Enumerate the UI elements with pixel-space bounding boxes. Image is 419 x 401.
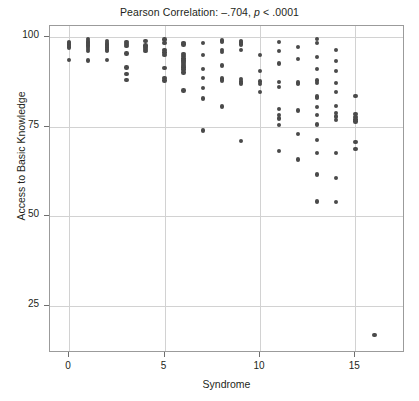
x-tick-label-5: 5 <box>144 360 184 371</box>
data-point <box>258 82 262 86</box>
data-point <box>124 51 128 55</box>
data-point <box>315 172 319 176</box>
plot-area <box>49 25 404 352</box>
data-point <box>239 42 243 46</box>
data-point <box>353 140 357 144</box>
y-tick-mark-75 <box>44 126 49 127</box>
data-point <box>201 76 205 80</box>
data-point <box>220 40 224 44</box>
data-point <box>258 69 262 73</box>
data-point <box>277 61 281 65</box>
gridline-horizontal-100 <box>50 37 403 38</box>
chart-title-suffix: < .0001 <box>260 6 299 18</box>
data-point <box>86 58 90 62</box>
gridline-horizontal-25 <box>50 306 403 307</box>
x-tick-label-15: 15 <box>334 360 374 371</box>
data-point <box>124 44 128 48</box>
x-tick-mark-0 <box>68 352 69 357</box>
data-point <box>239 81 243 85</box>
data-point <box>239 48 243 52</box>
data-point <box>353 147 357 151</box>
data-point <box>277 85 281 89</box>
data-point <box>201 67 205 71</box>
data-point <box>334 59 338 63</box>
data-point <box>353 119 357 123</box>
data-point <box>201 86 205 90</box>
data-point <box>277 149 281 153</box>
data-point <box>315 67 319 71</box>
data-point <box>334 200 338 204</box>
x-tick-mark-10 <box>259 352 260 357</box>
data-point <box>353 94 357 98</box>
data-point <box>334 81 338 85</box>
data-point <box>296 57 300 61</box>
data-point <box>277 40 281 44</box>
data-point <box>86 49 90 53</box>
x-tick-mark-15 <box>354 352 355 357</box>
gridline-vertical-5 <box>165 26 166 351</box>
data-point <box>334 104 338 108</box>
y-tick-label-100: 100 <box>3 29 39 40</box>
data-point <box>258 53 262 57</box>
data-point <box>296 157 300 161</box>
data-point <box>124 78 128 82</box>
data-point <box>181 70 185 74</box>
data-point <box>315 55 319 59</box>
data-point <box>296 82 300 86</box>
data-point <box>220 78 224 82</box>
data-point <box>315 105 319 109</box>
data-point <box>334 151 338 155</box>
data-point <box>277 49 281 53</box>
data-point <box>315 138 319 142</box>
gridline-vertical-0 <box>69 26 70 351</box>
gridline-vertical-10 <box>260 26 261 351</box>
data-point <box>201 128 205 132</box>
data-point <box>315 199 319 203</box>
scatter-plot-figure: Pearson Correlation: –.704, p < .0001 25… <box>0 0 419 401</box>
data-point <box>220 104 224 108</box>
data-point <box>201 41 205 45</box>
data-point <box>334 48 338 52</box>
data-point <box>277 116 281 120</box>
y-tick-label-25: 25 <box>3 298 39 309</box>
gridline-horizontal-75 <box>50 127 403 128</box>
y-tick-mark-100 <box>44 36 49 37</box>
data-point <box>334 69 338 73</box>
x-tick-label-0: 0 <box>48 360 88 371</box>
data-point <box>334 118 338 122</box>
data-point <box>105 58 109 62</box>
data-point <box>162 41 166 45</box>
data-point <box>258 90 262 94</box>
data-point <box>277 107 281 111</box>
data-point <box>143 49 147 53</box>
y-axis-title: Access to Basic Knowledge <box>15 56 27 256</box>
data-point <box>296 45 300 49</box>
data-point <box>315 81 319 85</box>
x-axis-title: Syndrome <box>49 378 404 390</box>
data-point <box>315 122 319 126</box>
data-point <box>162 53 166 57</box>
data-point <box>105 49 109 53</box>
chart-title-prefix: Pearson Correlation: –.704, <box>120 6 254 18</box>
data-point <box>181 88 185 92</box>
data-point <box>220 50 224 54</box>
data-point <box>315 113 319 117</box>
data-point <box>334 90 338 94</box>
data-point <box>124 65 128 69</box>
data-point <box>277 80 281 84</box>
gridline-horizontal-50 <box>50 216 403 217</box>
data-point <box>315 151 319 155</box>
gridline-vertical-15 <box>355 26 356 351</box>
data-point <box>67 58 71 62</box>
data-point <box>67 45 71 49</box>
data-point <box>181 42 185 46</box>
data-point <box>201 96 205 100</box>
x-tick-mark-5 <box>164 352 165 357</box>
data-point <box>296 108 300 112</box>
chart-title: Pearson Correlation: –.704, p < .0001 <box>0 6 419 18</box>
data-point <box>315 96 319 100</box>
data-point <box>201 53 205 57</box>
data-point <box>239 139 243 143</box>
data-point <box>162 66 166 70</box>
data-point <box>372 333 376 337</box>
